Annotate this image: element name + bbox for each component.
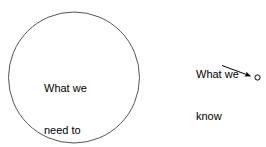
- diagram-canvas: What we need to know What we know: [0, 0, 266, 147]
- known-dot: [255, 75, 260, 80]
- unknown-label-line-1: What we: [44, 81, 87, 95]
- known-label: What we know: [196, 39, 239, 147]
- unknown-circle-label: What we need to know: [44, 53, 87, 147]
- unknown-label-line-2: need to: [44, 123, 87, 137]
- known-label-line-1: What we: [196, 67, 239, 81]
- known-label-line-2: know: [196, 109, 239, 123]
